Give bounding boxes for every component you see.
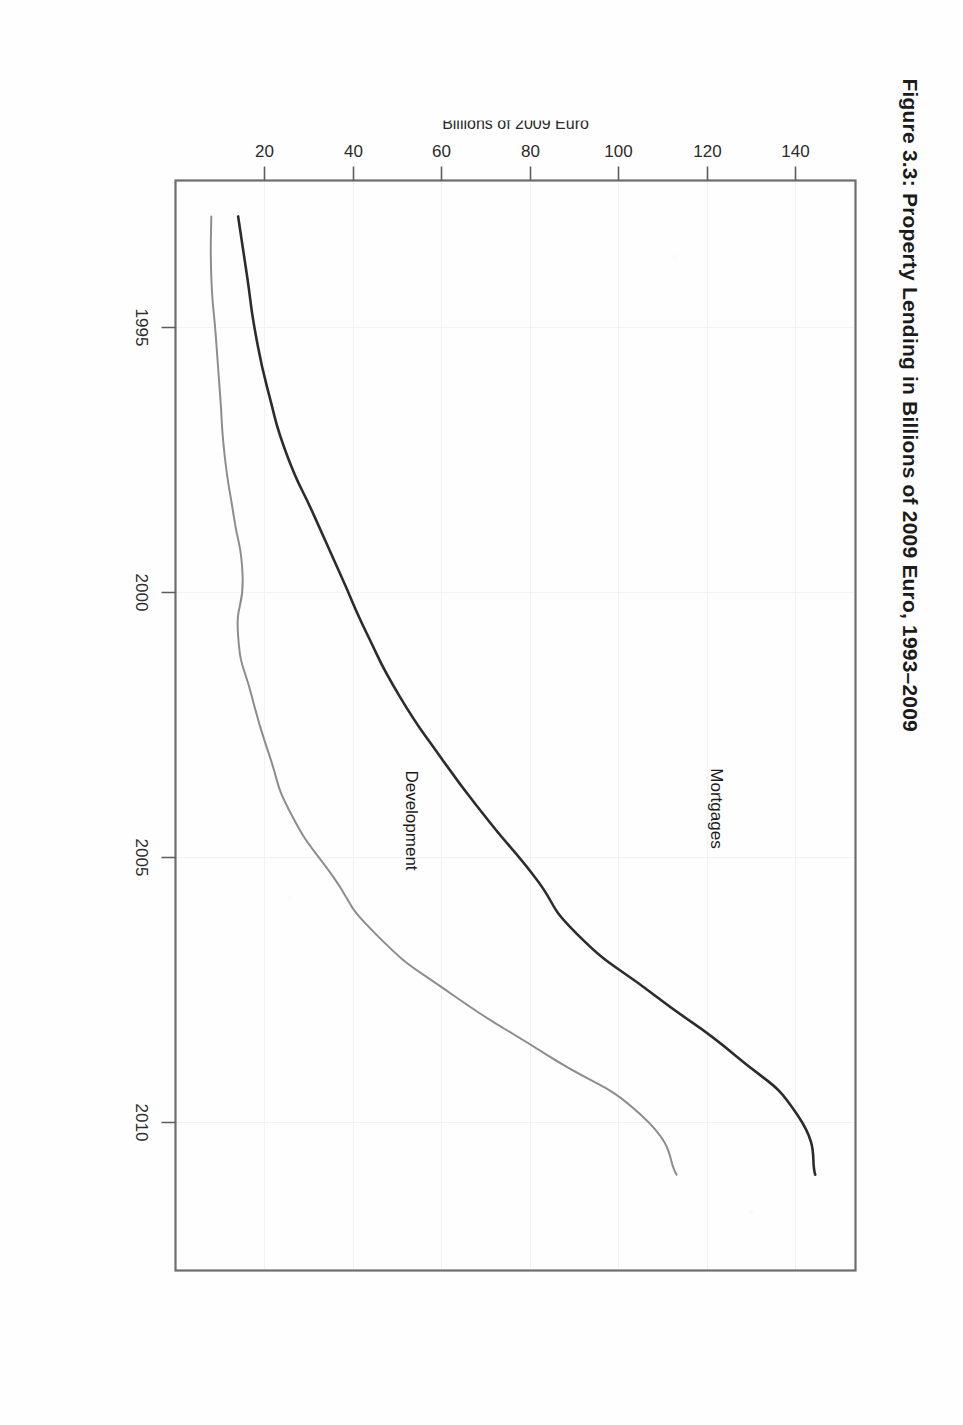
y-tick-label-80: 80 bbox=[521, 141, 540, 160]
mortgages-label: Mortgages bbox=[706, 768, 725, 848]
y-axis-ticks: 20 40 60 80 100 120 140 bbox=[255, 141, 810, 180]
grid-lines bbox=[175, 180, 855, 1270]
y-axis-title: Billions of 2009 Euro bbox=[442, 120, 589, 131]
y-tick-label-120: 120 bbox=[693, 141, 721, 160]
development-label: Development bbox=[401, 770, 420, 870]
line-chart: 1995 2000 2005 2010 20 40 60 80 100 120 bbox=[75, 120, 875, 1310]
page-title: Figure 3.3: Property Lending in Billions… bbox=[897, 78, 921, 732]
y-tick-label-60: 60 bbox=[432, 141, 451, 160]
x-tick-label-2010: 2010 bbox=[131, 1103, 150, 1141]
y-tick-label-140: 140 bbox=[781, 141, 809, 160]
series-line-development bbox=[210, 216, 676, 1174]
y-tick-label-100: 100 bbox=[604, 141, 632, 160]
chart-plot-area: 1995 2000 2005 2010 20 40 60 80 100 120 bbox=[75, 120, 875, 1310]
x-tick-label-2000: 2000 bbox=[131, 573, 150, 611]
x-tick-label-1995: 1995 bbox=[131, 308, 150, 346]
x-tick-label-2005: 2005 bbox=[131, 838, 150, 876]
y-tick-label-20: 20 bbox=[255, 141, 274, 160]
x-axis-ticks: 1995 2000 2005 2010 bbox=[131, 308, 175, 1141]
y-tick-label-40: 40 bbox=[344, 141, 363, 160]
series-line-mortgages bbox=[238, 216, 815, 1174]
plot-frame bbox=[175, 180, 855, 1270]
figure-page: Figure 3.3: Property Lending in Billions… bbox=[0, 0, 963, 1425]
